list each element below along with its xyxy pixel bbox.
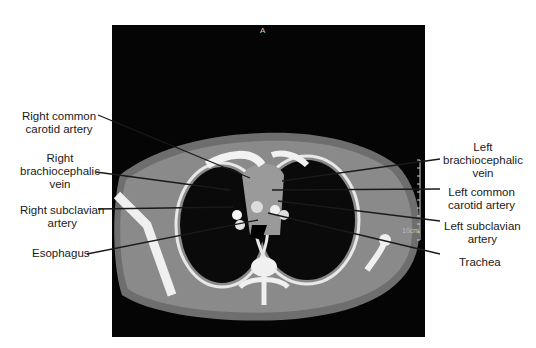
label-line: brachiocephalic — [20, 165, 100, 178]
label-line: vein — [20, 178, 100, 191]
label-trachea: Trachea — [459, 256, 501, 269]
label-line: carotid artery — [448, 199, 515, 212]
label-esophagus: Esophagus — [32, 247, 90, 260]
ct-scan-drawing — [112, 25, 425, 337]
label-line: Esophagus — [32, 247, 90, 260]
label-left-subclavian-artery: Left subclavian artery — [444, 220, 521, 246]
label-line: Right common — [22, 110, 96, 123]
label-line: Left common — [448, 186, 515, 199]
orientation-marker: A — [260, 26, 265, 35]
label-line: Left — [443, 141, 523, 154]
ct-scan-image: A 10cm — [112, 25, 425, 337]
label-line: artery — [444, 233, 521, 246]
label-line: vein — [443, 167, 523, 180]
label-line: Right — [20, 152, 100, 165]
label-right-common-carotid-artery: Right common carotid artery — [22, 110, 96, 136]
label-right-subclavian-artery: Right subclavian artery — [20, 204, 104, 230]
label-left-brachiocephalic-vein: Left brachiocephalic vein — [443, 141, 523, 180]
label-line: carotid artery — [22, 123, 96, 136]
label-line: Trachea — [459, 256, 501, 269]
label-line: brachiocephalic — [443, 154, 523, 167]
label-left-common-carotid-artery: Left common carotid artery — [448, 186, 515, 212]
label-line: artery — [20, 217, 104, 230]
label-line: Right subclavian — [20, 204, 104, 217]
scale-label: 10cm — [402, 227, 419, 234]
label-right-brachiocephalic-vein: Right brachiocephalic vein — [20, 152, 100, 191]
label-line: Left subclavian — [444, 220, 521, 233]
